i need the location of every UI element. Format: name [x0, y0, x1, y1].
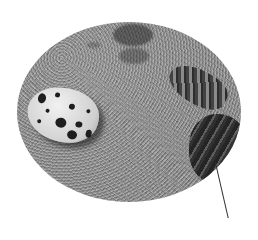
sand-smudge: [113, 24, 153, 46]
oval-photo: [17, 22, 241, 202]
sand-smudge: [119, 48, 149, 64]
sand-smudge: [87, 42, 101, 48]
snake-body: [189, 114, 241, 184]
